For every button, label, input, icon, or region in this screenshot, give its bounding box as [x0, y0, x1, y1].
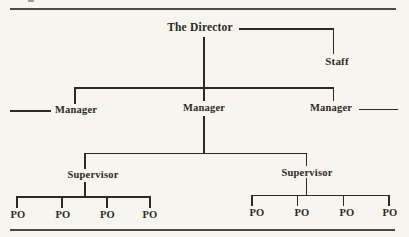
- node-supervisor-left: Supervisor: [67, 170, 118, 181]
- scanned-org-chart-figure: The Director Staff Manager Manager Manag…: [0, 0, 409, 237]
- edge-manager-right-drop: [333, 87, 335, 101]
- edge-manager-left-drop: [74, 87, 76, 104]
- node-supervisor-right: Supervisor: [281, 168, 332, 179]
- edge-po-right-tick-4: [388, 195, 390, 207]
- node-manager-right: Manager: [310, 103, 352, 114]
- node-po-right-1: PO: [250, 208, 265, 219]
- edge-po-left-tick-2: [61, 196, 63, 208]
- edge-manager-right-offpage-dash: [359, 109, 398, 111]
- node-staff: Staff: [325, 56, 349, 67]
- edge-po-left-tick-1: [16, 196, 18, 208]
- node-po-left-4: PO: [143, 210, 158, 221]
- bottom-rule: [10, 229, 395, 231]
- node-director: The Director: [167, 22, 233, 34]
- node-po-right-3: PO: [340, 208, 355, 219]
- scan-artifact: [28, 0, 34, 2]
- node-po-left-2: PO: [56, 210, 71, 221]
- node-po-left-1: PO: [11, 210, 26, 221]
- node-manager-left: Manager: [55, 105, 97, 116]
- edge-po-right-tick-1: [251, 195, 253, 207]
- node-po-right-4: PO: [383, 208, 398, 219]
- edge-supervisors-horizontal: [84, 153, 307, 155]
- edge-po-right-horizontal: [251, 195, 390, 197]
- edge-director-drop-vertical: [203, 37, 205, 101]
- edge-manager-center-drop: [203, 116, 205, 154]
- edge-manager-left-offpage-dash: [10, 110, 51, 112]
- edge-supervisor-right-drop: [306, 178, 308, 196]
- edge-director-to-staff-horizontal: [239, 28, 334, 30]
- node-po-right-2: PO: [295, 208, 310, 219]
- edge-managers-horizontal: [74, 87, 334, 89]
- edge-po-right-tick-2: [297, 195, 299, 207]
- node-po-left-3: PO: [100, 210, 115, 221]
- edge-po-left-horizontal: [16, 196, 151, 198]
- edge-supervisor-right-corner: [306, 153, 308, 166]
- node-manager-center: Manager: [183, 103, 225, 114]
- top-rule: [10, 8, 396, 10]
- edge-supervisor-left-corner: [84, 153, 86, 169]
- edge-po-left-tick-3: [106, 196, 108, 208]
- edge-supervisor-left-drop: [84, 182, 86, 197]
- edge-staff-drop-vertical: [333, 28, 335, 54]
- edge-po-left-tick-4: [149, 196, 151, 208]
- edge-po-right-tick-3: [343, 195, 345, 207]
